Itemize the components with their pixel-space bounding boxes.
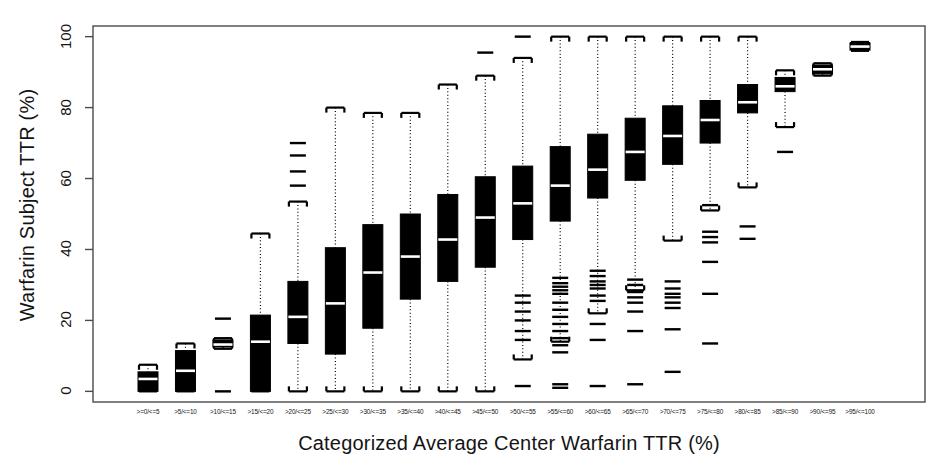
y-tick-label: 40 — [57, 229, 74, 269]
box-plot-item — [738, 37, 758, 239]
box-plot-item — [625, 37, 645, 385]
box-iqr — [438, 194, 458, 281]
box-iqr — [550, 147, 570, 221]
y-tick-label: 100 — [57, 16, 74, 56]
box-plot-item — [588, 37, 608, 386]
box-plot-item — [250, 234, 270, 392]
box-iqr — [625, 118, 645, 180]
x-tick-label: >95/<=100 — [838, 408, 882, 415]
plot-canvas — [0, 0, 942, 471]
box-plot-item — [400, 113, 420, 391]
box-iqr — [325, 248, 345, 354]
box-plot-item — [850, 42, 870, 51]
box-plot-item — [813, 63, 833, 75]
box-plot-item — [213, 319, 233, 392]
y-tick-label: 80 — [57, 87, 74, 127]
box-iqr — [738, 85, 758, 113]
y-tick-label: 0 — [57, 371, 74, 411]
box-plot-item — [363, 113, 383, 391]
box-iqr — [775, 77, 795, 91]
box-iqr — [475, 177, 495, 267]
box-plot-item — [775, 70, 795, 152]
x-axis-title: Categorized Average Center Warfarin TTR … — [93, 432, 925, 455]
boxplot-figure: Warfarin Subject TTR (%) Categorized Ave… — [0, 0, 942, 471]
box-plot-item — [700, 37, 720, 344]
box-iqr — [700, 100, 720, 143]
box-iqr — [363, 225, 383, 329]
box-plot-item — [550, 37, 570, 388]
box-iqr — [138, 372, 158, 392]
y-tick-label: 60 — [57, 158, 74, 198]
box-plot-item — [513, 37, 533, 386]
box-plot-item — [138, 365, 158, 392]
y-tick-label: 20 — [57, 300, 74, 340]
box-iqr — [588, 134, 608, 198]
box-iqr — [288, 281, 308, 343]
box-plot-item — [325, 108, 345, 392]
box-plot-item — [438, 85, 458, 392]
box-plot-item — [475, 53, 495, 392]
box-plot-item — [663, 37, 683, 372]
box-iqr — [250, 315, 270, 391]
box-plot-item — [288, 143, 308, 391]
y-axis-title: Warfarin Subject TTR (%) — [10, 0, 44, 420]
box-plot-item — [175, 343, 195, 391]
